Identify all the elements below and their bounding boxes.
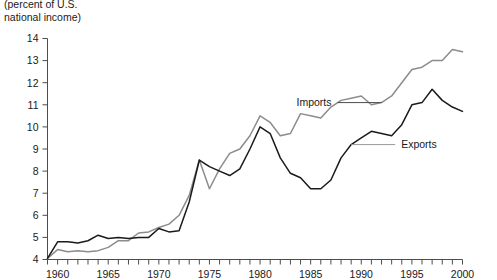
x-axis-tick-label: 1985 [299,268,323,280]
y-axis: 4567891011121314 [27,32,48,265]
series-label-imports: Imports [297,96,332,108]
x-axis-tick-label: 1980 [248,268,272,280]
y-axis-tick-label: 13 [27,54,39,66]
data-series-group [48,50,463,259]
x-axis-tick-label: 1975 [198,268,222,280]
line-chart-plot: 4567891011121314 19601965197019751980198… [0,0,497,280]
series-line-imports [48,50,463,259]
x-axis-tick-label: 1970 [147,268,171,280]
y-axis-tick-label: 11 [28,99,39,111]
y-axis-tick-label: 9 [33,143,39,155]
y-axis-tick-label: 6 [33,209,39,221]
y-axis-tick-label: 5 [33,231,39,243]
x-axis-tick-label: 1960 [46,268,70,280]
x-axis-tick-label: 1990 [350,268,374,280]
x-axis: 196019651970197519801985199019952000 [46,260,474,280]
y-axis-tick-label: 12 [27,77,39,89]
y-axis-tick-label: 8 [33,165,39,177]
y-axis-tick-label: 4 [33,253,39,265]
series-line-exports [48,89,463,258]
series-label-exports: Exports [401,138,437,150]
y-axis-tick-label: 7 [33,187,39,199]
y-axis-tick-label: 10 [27,121,39,133]
y-axis-tick-label: 14 [27,32,39,44]
chart-figure: (percent of U.S. national income) 456789… [0,0,497,280]
x-axis-tick-label: 1965 [97,268,121,280]
x-axis-tick-label: 1995 [400,268,424,280]
x-axis-tick-label: 2000 [451,268,475,280]
